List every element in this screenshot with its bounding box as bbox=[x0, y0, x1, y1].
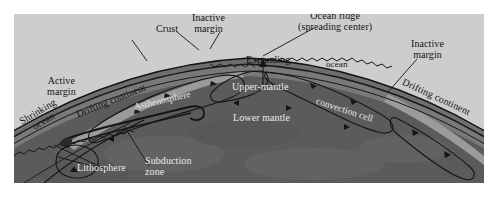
label-subduction-zone-line1: Subduction bbox=[145, 155, 192, 166]
label-inactive-margin-left-line2: margin bbox=[194, 23, 223, 34]
label-crust: Crust bbox=[156, 24, 178, 35]
label-ocean: ocean bbox=[326, 60, 347, 70]
label-inactive-margin-left: Inactivemargin bbox=[192, 14, 225, 34]
label-active-margin-line1: Active bbox=[48, 75, 75, 86]
figure-root: Activemargin Shrinkingocean Drifting con… bbox=[0, 0, 497, 200]
label-subduction-zone-line2: zone bbox=[145, 166, 164, 177]
label-inactive-margin-right: Inactivemargin bbox=[411, 39, 444, 60]
label-expanding: Expanding bbox=[246, 55, 290, 66]
label-subduction-zone: Subductionzone bbox=[145, 156, 192, 177]
diagram-panel: Activemargin Shrinkingocean Drifting con… bbox=[14, 14, 484, 183]
label-ocean-ridge-line2: (spreading center) bbox=[298, 21, 372, 32]
label-inactive-margin-right-line1: Inactive bbox=[411, 38, 444, 49]
label-lower-mantle: Lower mantle bbox=[233, 113, 290, 124]
label-ocean-ridge: Ocean ridge(spreading center) bbox=[298, 14, 372, 32]
label-active-margin: Activemargin bbox=[47, 76, 76, 97]
label-inactive-margin-left-line1: Inactive bbox=[192, 14, 225, 23]
label-upper-mantle: Upper-mantle bbox=[232, 82, 289, 93]
label-lithosphere: Lithosphere bbox=[77, 163, 126, 174]
label-active-margin-line2: margin bbox=[47, 86, 76, 97]
label-inactive-margin-right-line2: margin bbox=[413, 49, 442, 60]
